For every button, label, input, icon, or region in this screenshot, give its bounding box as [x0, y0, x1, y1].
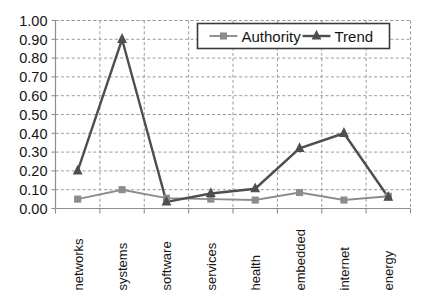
y-tick-label: 0.80 [19, 50, 47, 66]
line-chart: 0.000.100.200.300.400.500.600.700.800.90… [0, 0, 425, 305]
y-axis-tick-labels: 0.000.100.200.300.400.500.600.700.800.90… [19, 13, 47, 217]
y-tick-label: 0.60 [19, 88, 47, 104]
data-point-marker-square [252, 197, 258, 203]
data-point-marker-square [221, 33, 227, 39]
x-tick-label: networks [71, 238, 86, 291]
legend-label-authority: Authority [242, 28, 302, 45]
y-tick-label: 0.30 [19, 144, 47, 160]
chart-canvas: 0.000.100.200.300.400.500.600.700.800.90… [0, 0, 425, 305]
y-tick-label: 1.00 [19, 13, 47, 29]
legend-label-trend: Trend [335, 28, 374, 45]
y-tick-label: 0.70 [19, 69, 47, 85]
x-tick-label: internet [337, 247, 352, 291]
x-tick-label: software [159, 241, 174, 290]
y-tick-label: 0.10 [19, 182, 47, 198]
legend: AuthorityTrend [198, 24, 390, 49]
data-point-marker-square [297, 190, 303, 196]
x-tick-label: energy [381, 250, 396, 290]
y-tick-label: 0.20 [19, 163, 47, 179]
y-tick-label: 0.00 [19, 201, 47, 217]
data-point-marker-square [75, 196, 81, 202]
x-tick-label: embedded [293, 229, 308, 290]
data-point-marker-square [119, 187, 125, 193]
x-tick-label: services [204, 242, 219, 290]
y-tick-label: 0.90 [19, 32, 47, 48]
y-tick-label: 0.40 [19, 126, 47, 142]
data-point-marker-square [341, 197, 347, 203]
x-tick-label: systems [115, 242, 130, 290]
y-tick-label: 0.50 [19, 107, 47, 123]
x-tick-label: health [248, 255, 263, 290]
